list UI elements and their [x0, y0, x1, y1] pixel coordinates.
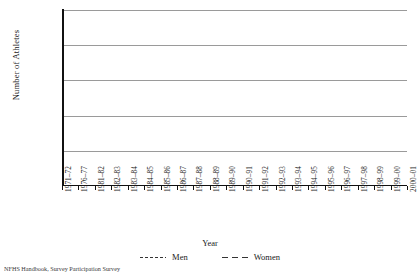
legend-label-men: Men: [172, 253, 188, 262]
x-axis-tick: [193, 186, 194, 190]
x-axis-tick-label: 1981–82: [98, 166, 106, 192]
y-axis-title: Number of Athletes: [11, 5, 21, 125]
x-axis-tick: [62, 186, 63, 190]
x-axis-tick-label: 1993–94: [295, 166, 303, 192]
x-axis-tick: [325, 186, 326, 190]
x-axis-tick-label: 1994–95: [311, 166, 319, 192]
legend-line-women-icon: [222, 257, 248, 258]
gridline: [62, 151, 407, 152]
x-axis-tick: [391, 186, 392, 190]
x-axis-title: Year: [0, 238, 420, 248]
x-axis-tick-labels: 1971–721976–771981–821982–831983–841984–…: [62, 192, 407, 242]
chart-legend: Men Women: [0, 249, 420, 265]
x-axis-tick-label: 1992–93: [279, 166, 287, 192]
x-axis-tick: [177, 186, 178, 190]
x-axis-tick-label: 1986–87: [180, 166, 188, 192]
x-axis-tick-label: 1989–90: [229, 166, 237, 192]
legend-item-women: Women: [222, 253, 280, 262]
x-axis-tick: [161, 186, 162, 190]
x-axis-tick: [210, 186, 211, 190]
plot-area: [62, 10, 407, 186]
chart-figure: Number of Athletes 50,000100,000150,0002…: [0, 0, 420, 272]
gridline: [62, 10, 407, 11]
x-axis-tick: [358, 186, 359, 190]
x-axis-tick: [276, 186, 277, 190]
legend-item-men: Men: [140, 253, 188, 262]
x-axis-tick: [374, 186, 375, 190]
y-axis-spine: [62, 9, 64, 186]
x-axis-tick-label: 1988–89: [213, 166, 221, 192]
x-axis-tick: [144, 186, 145, 190]
x-axis-tick: [78, 186, 79, 190]
x-axis-tick: [341, 186, 342, 190]
x-axis-tick: [226, 186, 227, 190]
gridline: [62, 45, 407, 46]
x-axis-tick: [259, 186, 260, 190]
x-axis-tick-label: 1990–91: [246, 166, 254, 192]
x-axis-tick-label: 1983–84: [131, 166, 139, 192]
x-axis-tick-label: 1998–99: [377, 166, 385, 192]
chart-footnote: NFHS Handbook, Survey Participation Surv…: [4, 265, 416, 272]
x-axis-tick-label: 1991–92: [262, 166, 270, 192]
gridline: [62, 116, 407, 117]
x-axis-tick: [95, 186, 96, 190]
gridline: [62, 80, 407, 81]
x-axis-tick-label: 1997–98: [361, 166, 369, 192]
legend-line-men-icon: [140, 257, 166, 258]
x-axis-tick-label: 1985–86: [164, 166, 172, 192]
x-axis-tick-label: 1987–88: [196, 166, 204, 192]
x-axis-tick: [128, 186, 129, 190]
x-axis-tick-label: 1982–83: [114, 166, 122, 192]
x-axis-tick-label: 1984–85: [147, 166, 155, 192]
x-axis-tick: [407, 186, 408, 190]
x-axis-tick-label: 2000–01: [410, 166, 418, 192]
x-axis-tick: [308, 186, 309, 190]
x-axis-tick-label: 1976–77: [81, 166, 89, 192]
legend-label-women: Women: [254, 253, 280, 262]
x-axis-tick: [111, 186, 112, 190]
x-axis-tick-label: 1996–97: [344, 166, 352, 192]
x-axis-tick-label: 1995–96: [328, 166, 336, 192]
x-axis-tick: [292, 186, 293, 190]
x-axis-tick-label: 1999–00: [394, 166, 402, 192]
x-axis-tick: [243, 186, 244, 190]
x-axis-tick-label: 1971–72: [65, 166, 73, 192]
plot-background: [62, 10, 407, 186]
